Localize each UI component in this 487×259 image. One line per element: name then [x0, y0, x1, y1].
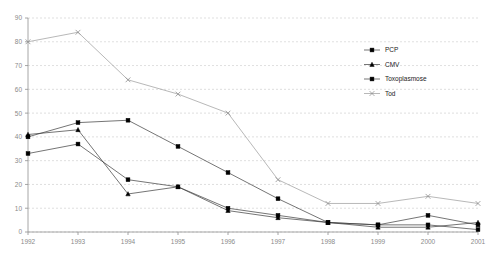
- y-axis-tick-label: 70: [15, 62, 23, 69]
- legend-item-label: PCP: [385, 46, 398, 53]
- x-axis-tick-label: 2000: [421, 238, 436, 245]
- square-marker-icon: [276, 197, 280, 201]
- square-marker-icon: [276, 213, 280, 217]
- square-marker-icon: [426, 223, 430, 227]
- axis-lines: [28, 18, 478, 232]
- legend-item-label: Tod: [385, 90, 396, 97]
- x-axis-tick-label: 1993: [71, 238, 86, 245]
- x-tick-marks: [28, 232, 478, 235]
- square-marker-icon: [476, 228, 480, 232]
- series-markers: [26, 30, 481, 232]
- y-axis-tick-label: 50: [15, 110, 23, 117]
- x-marker-icon: [276, 177, 281, 182]
- x-axis-tick-label: 1995: [171, 238, 186, 245]
- series-line-toxoplasmose: [28, 144, 478, 230]
- x-axis-tick-labels: 1992199319941995199619971998199920002001: [21, 238, 486, 245]
- x-axis-tick-label: 1999: [371, 238, 386, 245]
- gridlines: [28, 18, 478, 232]
- square-marker-icon: [226, 206, 230, 210]
- square-marker-icon: [176, 185, 180, 189]
- y-axis-tick-label: 90: [15, 14, 23, 21]
- y-axis-tick-labels: 0102030405060708090: [15, 14, 23, 235]
- square-marker-icon: [76, 142, 80, 146]
- square-marker-icon: [326, 221, 330, 225]
- series-lines: [28, 32, 478, 229]
- square-marker-icon: [26, 152, 30, 156]
- y-axis-tick-label: 30: [15, 157, 23, 164]
- square-marker-icon: [370, 77, 374, 81]
- legend-item-cmv: CMV: [364, 61, 400, 68]
- series-line-tod: [28, 32, 478, 203]
- y-tick-marks: [25, 18, 28, 232]
- square-marker-icon: [426, 213, 430, 217]
- square-marker-icon: [76, 121, 80, 125]
- legend-item-label: CMV: [385, 61, 400, 68]
- line-chart: 0102030405060708090 19921993199419951996…: [0, 0, 487, 259]
- x-axis-tick-label: 2001: [471, 238, 486, 245]
- square-marker-icon: [376, 223, 380, 227]
- x-marker-icon: [126, 77, 131, 82]
- square-marker-icon: [226, 171, 230, 175]
- y-axis-tick-label: 0: [18, 228, 22, 235]
- x-axis-tick-label: 1996: [221, 238, 236, 245]
- x-axis-tick-label: 1994: [121, 238, 136, 245]
- legend-item-toxoplasmose: Toxoplasmose: [364, 75, 427, 83]
- y-axis-tick-label: 40: [15, 133, 23, 140]
- square-marker-icon: [126, 118, 130, 122]
- series-line-pcp: [28, 120, 478, 225]
- x-axis-tick-label: 1992: [21, 238, 36, 245]
- y-axis-tick-label: 60: [15, 86, 23, 93]
- chart-plot-area: 0102030405060708090 19921993199419951996…: [0, 0, 487, 259]
- legend-item-label: Toxoplasmose: [385, 75, 427, 83]
- y-axis-tick-label: 80: [15, 38, 23, 45]
- square-marker-icon: [176, 145, 180, 149]
- y-axis-tick-label: 10: [15, 205, 23, 212]
- legend-item-pcp: PCP: [364, 46, 398, 53]
- x-axis-tick-label: 1997: [271, 238, 286, 245]
- square-marker-icon: [126, 178, 130, 182]
- legend-item-tod: Tod: [364, 90, 396, 97]
- x-axis-tick-label: 1998: [321, 238, 336, 245]
- y-axis-tick-label: 20: [15, 181, 23, 188]
- square-marker-icon: [370, 48, 374, 52]
- x-marker-icon: [176, 92, 181, 97]
- series-line-cmv: [28, 130, 478, 227]
